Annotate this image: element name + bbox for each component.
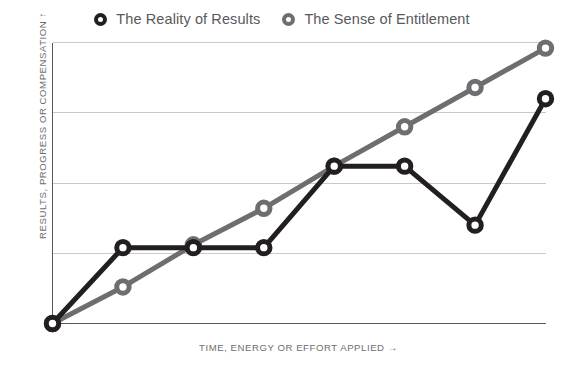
data-point-the-sense-of-entitlement-1[interactable] [117,281,129,293]
data-point-the-reality-of-results-0[interactable] [46,317,58,329]
data-point-the-reality-of-results-6[interactable] [469,219,481,231]
data-point-the-sense-of-entitlement-5[interactable] [398,121,410,133]
data-point-the-sense-of-entitlement-6[interactable] [469,81,481,93]
data-point-the-reality-of-results-7[interactable] [539,93,551,105]
data-series [46,42,551,330]
plot-area [0,0,564,372]
data-point-the-reality-of-results-4[interactable] [328,160,340,172]
data-point-the-reality-of-results-3[interactable] [258,241,270,253]
data-point-the-reality-of-results-1[interactable] [117,241,129,253]
series-the-sense-of-entitlement [46,42,551,330]
chart-container: The Reality of Results The Sense of Enti… [0,0,564,372]
data-point-the-sense-of-entitlement-7[interactable] [539,42,551,54]
data-point-the-reality-of-results-2[interactable] [187,241,199,253]
data-point-the-reality-of-results-5[interactable] [398,160,410,172]
data-point-the-sense-of-entitlement-3[interactable] [258,202,270,214]
